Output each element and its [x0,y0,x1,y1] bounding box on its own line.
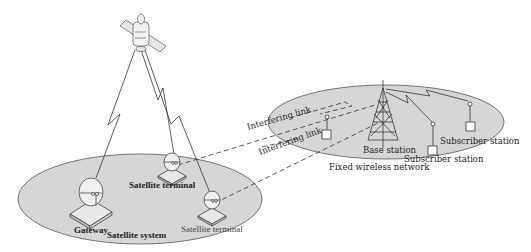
satellite-terminal-1-label: Satellite terminal [129,180,196,190]
satellite-terminal-2-label: Satellite terminal [181,224,243,234]
fixed-wireless-network-label: Fixed wireless network [329,162,430,172]
satellite-icon [120,14,166,52]
subscriber-station-2-label: Subscriber station [440,136,520,146]
interference-diagram: Gateway Satellite system Satellite termi… [0,0,531,252]
gateway-label: Gateway [74,225,108,235]
satellite-system-label: Satellite system [107,230,167,240]
